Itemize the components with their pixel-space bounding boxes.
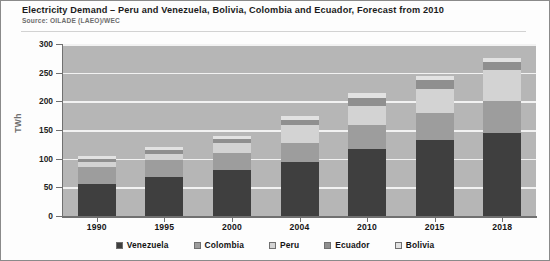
- bar-segment-venezuela[interactable]: [78, 184, 116, 216]
- bar-stack-2000[interactable]: [213, 44, 251, 216]
- legend-swatch-icon: [269, 242, 276, 249]
- chart-figure: Electricity Demand – Peru and Venezuela,…: [0, 0, 550, 261]
- bar-stack-2010[interactable]: [348, 44, 386, 216]
- bar-segment-colombia[interactable]: [281, 143, 319, 162]
- legend-label: Colombia: [205, 240, 244, 250]
- bar-stack-2015[interactable]: [416, 44, 454, 216]
- bar-segment-colombia[interactable]: [145, 160, 183, 177]
- bar-segment-peru[interactable]: [348, 106, 386, 125]
- y-axis-tick-label: 50: [21, 182, 53, 192]
- bar-stack-1990[interactable]: [78, 44, 116, 216]
- bar-segment-peru[interactable]: [213, 143, 251, 153]
- header-divider: [21, 31, 526, 32]
- legend-label: Bolivia: [406, 240, 435, 250]
- y-axis-tick: [56, 73, 62, 74]
- legend-item-colombia[interactable]: Colombia: [194, 240, 244, 250]
- bar-segment-ecuador[interactable]: [348, 98, 386, 106]
- x-axis-tick-label: 2018: [472, 222, 532, 232]
- y-axis-tick-label: 100: [21, 154, 53, 164]
- x-axis-tick-label: 2000: [202, 222, 262, 232]
- bar-stack-2018[interactable]: [483, 44, 521, 216]
- y-axis-tick-label: 150: [21, 125, 53, 135]
- y-axis-tick-label: 0: [21, 211, 53, 221]
- y-axis-tick: [56, 130, 62, 131]
- bar-segment-venezuela[interactable]: [483, 133, 521, 216]
- bar-segment-venezuela[interactable]: [281, 162, 319, 216]
- bar-segment-venezuela[interactable]: [145, 177, 183, 216]
- y-axis-tick: [56, 187, 62, 188]
- bar-segment-colombia[interactable]: [348, 125, 386, 149]
- legend-swatch-icon: [324, 242, 331, 249]
- chart-source: Source: OILADE (LAEO)/WEC: [22, 17, 549, 24]
- bar-segment-colombia[interactable]: [213, 153, 251, 170]
- y-axis-tick: [56, 44, 62, 45]
- x-axis-tick-label: 2010: [337, 222, 397, 232]
- bar-segment-venezuela[interactable]: [416, 140, 454, 216]
- bar-segment-colombia[interactable]: [78, 167, 116, 184]
- bar-segment-venezuela[interactable]: [348, 149, 386, 216]
- legend-swatch-icon: [395, 242, 402, 249]
- chart-legend: VenezuelaColombiaPeruEcuadorBolivia: [1, 240, 549, 250]
- bar-segment-colombia[interactable]: [483, 101, 521, 133]
- legend-label: Peru: [280, 240, 299, 250]
- x-axis-tick-label: 1995: [134, 222, 194, 232]
- bar-stack-1995[interactable]: [145, 44, 183, 216]
- bar-segment-ecuador[interactable]: [483, 62, 521, 69]
- bar-segment-peru[interactable]: [483, 70, 521, 102]
- chart-title: Electricity Demand – Peru and Venezuela,…: [22, 5, 549, 16]
- legend-item-venezuela[interactable]: Venezuela: [116, 240, 169, 250]
- legend-swatch-icon: [116, 242, 123, 249]
- y-axis-tick-label: 200: [21, 96, 53, 106]
- x-axis-tick-label: 2004: [270, 222, 330, 232]
- bar-segment-colombia[interactable]: [416, 113, 454, 140]
- chart-header: Electricity Demand – Peru and Venezuela,…: [1, 1, 549, 27]
- legend-item-peru[interactable]: Peru: [269, 240, 299, 250]
- plot-area: [63, 44, 536, 216]
- legend-label: Venezuela: [127, 240, 169, 250]
- bar-stack-2004[interactable]: [281, 44, 319, 216]
- legend-label: Ecuador: [335, 240, 370, 250]
- y-axis-tick-label: 250: [21, 68, 53, 78]
- bar-segment-ecuador[interactable]: [416, 80, 454, 89]
- y-axis-tick-labels: 050100150200250300: [11, 1, 53, 261]
- x-axis-tick-label: 2015: [405, 222, 465, 232]
- bar-segment-venezuela[interactable]: [213, 170, 251, 216]
- plot-wrapper: [63, 44, 536, 216]
- legend-swatch-icon: [194, 242, 201, 249]
- y-axis-tick: [56, 101, 62, 102]
- y-axis-tick: [56, 159, 62, 160]
- legend-item-ecuador[interactable]: Ecuador: [324, 240, 370, 250]
- legend-item-bolivia[interactable]: Bolivia: [395, 240, 435, 250]
- bar-segment-peru[interactable]: [281, 125, 319, 142]
- bar-segment-peru[interactable]: [416, 89, 454, 113]
- x-axis-tick-label: 1990: [67, 222, 127, 232]
- y-axis-tick-label: 300: [21, 39, 53, 49]
- y-axis-tick: [56, 216, 62, 217]
